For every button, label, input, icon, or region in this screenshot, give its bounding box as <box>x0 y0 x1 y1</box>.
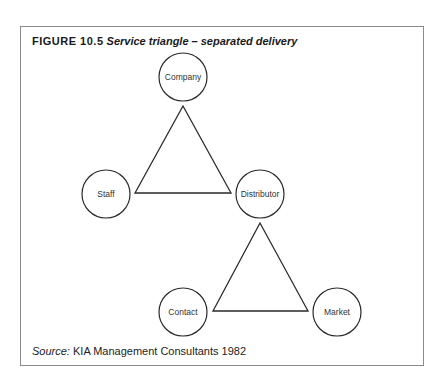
node-contact: Contact <box>159 288 207 336</box>
node-distributor: Distributor <box>236 170 284 218</box>
upper-triangle <box>135 106 231 193</box>
source-label: Source: <box>32 345 70 357</box>
node-staff: Staff <box>82 170 130 218</box>
node-company-label: Company <box>165 72 202 82</box>
node-contact-label: Contact <box>168 307 198 317</box>
node-market-label: Market <box>324 307 351 317</box>
source-text: KIA Management Consultants 1982 <box>73 345 246 357</box>
figure-source: Source: KIA Management Consultants 1982 <box>32 345 246 358</box>
node-staff-label: Staff <box>97 189 115 199</box>
node-distributor-label: Distributor <box>241 189 280 199</box>
lower-triangle <box>213 223 308 311</box>
node-market: Market <box>313 288 361 336</box>
node-company: Company <box>159 53 207 101</box>
service-triangle-diagram: Company Staff Distributor Contact Market <box>0 0 446 384</box>
